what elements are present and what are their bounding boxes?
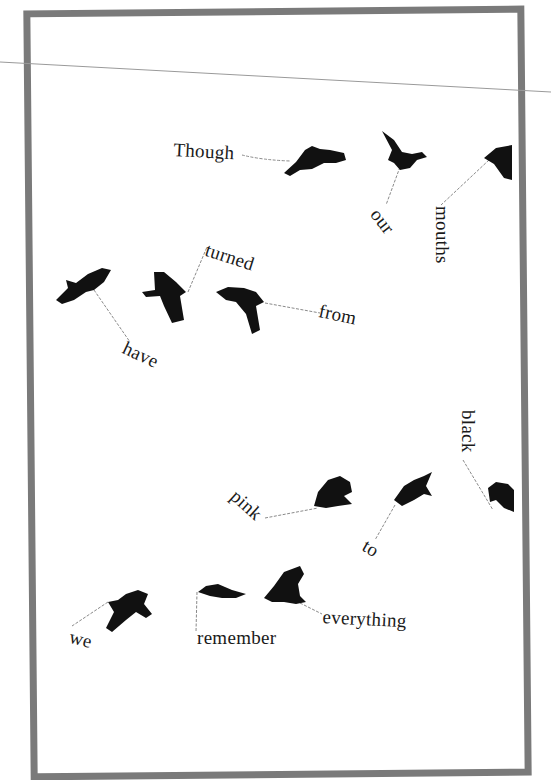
poem-word: everything <box>322 607 407 630</box>
bird-icon <box>484 145 512 180</box>
poem-word: black <box>459 410 478 453</box>
bird-icon <box>382 131 427 170</box>
bird-icon <box>198 584 246 598</box>
bird-icon <box>394 472 432 506</box>
bird-icon <box>216 287 264 334</box>
poem-word: remember <box>197 628 276 647</box>
connector-lines <box>72 155 493 632</box>
bird-icon <box>264 566 306 604</box>
poem-word: we <box>67 627 94 651</box>
bird-icon <box>314 476 352 508</box>
poem-word: Though <box>173 140 235 162</box>
bird-icon <box>284 146 346 176</box>
bird-icon <box>142 272 186 323</box>
poem-word: mouths <box>433 206 452 264</box>
bird-icon <box>56 268 111 304</box>
scan-line <box>0 62 551 92</box>
bird-icon <box>106 590 152 632</box>
